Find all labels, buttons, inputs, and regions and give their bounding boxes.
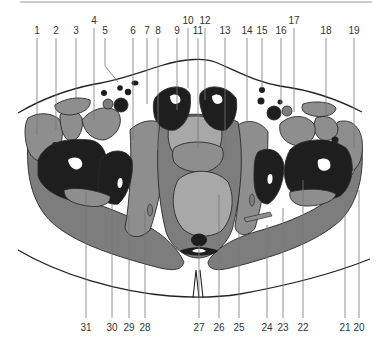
- muscle-left-anterior-sartorius: [55, 98, 90, 115]
- label-3: 3: [73, 25, 79, 36]
- label-27: 27: [193, 322, 205, 333]
- left-femoral-artery: [103, 99, 113, 109]
- natal-cleft: [193, 270, 203, 298]
- left-lymph-node-1: [101, 90, 107, 96]
- label-13: 13: [219, 25, 231, 36]
- right-femoral-vein: [267, 106, 281, 120]
- anal-canal: [191, 234, 207, 247]
- label-11: 11: [193, 25, 204, 36]
- label-18: 18: [320, 25, 332, 36]
- muscle-right-anterior-sartorius: [302, 102, 336, 117]
- label-31: 31: [80, 322, 92, 333]
- left-lymph-node-2: [117, 85, 123, 91]
- label-28: 28: [139, 322, 151, 333]
- top-labels: 1 2 3 4 5 6 7 8 9 10 11 12 13 14 15 16 1…: [34, 15, 360, 36]
- label-16: 16: [275, 25, 287, 36]
- label-6: 6: [130, 25, 136, 36]
- pudendal-vessels-left: [148, 204, 153, 216]
- label-7: 7: [144, 25, 150, 36]
- left-femoral-vein: [114, 98, 128, 112]
- label-24: 24: [261, 322, 273, 333]
- soft-tissue-body: [25, 81, 363, 299]
- bottom-labels: 31 30 29 28 27 26 25 24 23 22 21 20: [80, 322, 365, 333]
- label-30: 30: [106, 322, 118, 333]
- label-20: 20: [353, 322, 365, 333]
- left-lymph-node-3: [125, 89, 131, 95]
- right-lymph-node-3: [278, 100, 283, 105]
- label-8: 8: [155, 25, 161, 36]
- label-22: 22: [297, 322, 309, 333]
- label-19: 19: [348, 25, 360, 36]
- label-23: 23: [277, 322, 289, 333]
- label-2: 2: [53, 25, 59, 36]
- rectum: [173, 171, 232, 236]
- label-26: 26: [213, 322, 225, 333]
- right-lymph-node-2: [258, 98, 265, 105]
- pelvis-cross-section-diagram: 1 2 3 4 5 6 7 8 9 10 11 12 13 14 15 16 1…: [0, 0, 392, 355]
- label-1: 1: [34, 25, 40, 36]
- label-14: 14: [241, 25, 253, 36]
- pudendal-vessels-right: [250, 194, 255, 206]
- label-15: 15: [256, 25, 268, 36]
- muscle-left-iliopsoas: [82, 108, 120, 140]
- label-21: 21: [339, 322, 351, 333]
- label-9: 9: [174, 25, 180, 36]
- label-17: 17: [288, 15, 300, 26]
- left-lymph-node-4: [132, 81, 139, 86]
- label-12: 12: [199, 15, 211, 26]
- muscle-left-lateral-2: [60, 111, 83, 142]
- label-5: 5: [102, 25, 108, 36]
- label-29: 29: [123, 322, 135, 333]
- label-4: 4: [91, 15, 97, 26]
- right-femoral-artery: [282, 106, 292, 116]
- label-25: 25: [233, 322, 245, 333]
